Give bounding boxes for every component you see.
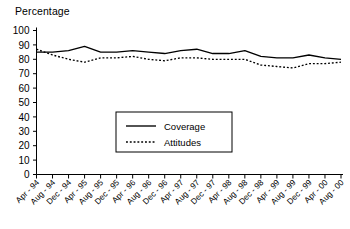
legend-label-attitudes: Attitudes [164,137,201,148]
y-axis-tick-label: 40 [18,112,30,123]
y-axis-tick-label: 70 [18,68,30,79]
page-edge-artifact [0,223,350,229]
y-axis-tick-label: 90 [18,40,30,51]
y-axis-tick-label: 0 [24,169,30,180]
y-axis-tick-labels: 0102030405060708090100 [13,25,30,180]
y-axis-tick-label: 60 [18,83,30,94]
y-axis-tick-label: 80 [18,54,30,65]
series-line-coverage [37,46,342,59]
legend-label-coverage: Coverage [164,121,205,132]
series-line-attitudes [37,49,342,68]
y-axis-tick-label: 30 [18,126,30,137]
y-axis-tick-label: 100 [13,25,30,36]
y-axis-tick-label: 50 [18,97,30,108]
x-axis-tick-labels: Apr - 94Aug - 94Dec - 94Apr - 95Aug - 95… [14,178,346,207]
y-axis-tick-label: 20 [18,140,30,151]
y-axis-tick-label: 10 [18,155,30,166]
chart-container: Percentage 0102030405060708090100 Apr - … [0,0,350,229]
chart-plot-svg: 0102030405060708090100 Apr - 94Aug - 94D… [0,0,350,229]
y-axis-tick-marks [33,31,37,175]
chart-legend: CoverageAttitudes [116,112,232,152]
